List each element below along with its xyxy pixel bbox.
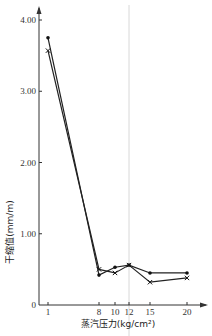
axes: 01.002.003.004.001810121520蒸汽压力(kg/cm²)干… [4,5,208,336]
x-tick-label: 20 [183,307,193,317]
y-tick-label: 1.00 [20,229,36,239]
x-tick-label: 12 [125,307,134,317]
dot-marker-icon [113,265,117,269]
y-axis-label: 干缩值(mm/m) [4,200,15,263]
y-tick-label: 0 [32,300,37,310]
x-tick-label: 15 [146,307,156,317]
dot-marker-icon [185,271,189,275]
y-axis-arrow-icon [37,6,42,14]
dot-marker-icon [97,273,101,277]
series-group [46,36,189,284]
x-tick-label: 1 [46,307,51,317]
y-tick-label: 4.00 [20,15,36,25]
dot-marker-icon [46,36,50,40]
x-axis-label: 蒸汽压力(kg/cm²) [81,318,155,329]
line-series-dot [48,38,187,275]
chart: 01.002.003.004.001810121520蒸汽压力(kg/cm²)干… [0,0,212,336]
x-tick-label: 8 [97,307,102,317]
y-tick-label: 2.00 [20,158,36,168]
x-axis-arrow-icon [200,303,208,308]
line-series-cross [48,51,187,283]
dot-marker-icon [148,271,152,275]
x-tick-label: 10 [111,307,121,317]
y-tick-label: 3.00 [20,86,36,96]
